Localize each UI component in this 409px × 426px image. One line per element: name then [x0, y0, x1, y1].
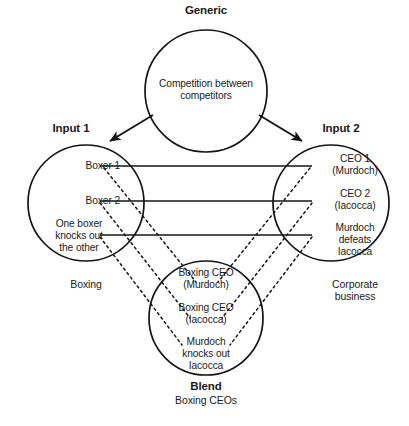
input1-element-boxer2: Boxer 2 — [46, 195, 120, 207]
input1-element-knockout: One boxer knocks out the other — [38, 218, 120, 254]
generic-space-title: Generic — [156, 4, 256, 18]
input2-element-ceo1: CEO 1 (Murdoch) — [316, 153, 394, 177]
input2-element-defeat: Murdoch defeats Iacocca — [316, 222, 394, 258]
generic-to-input1-arrow — [110, 115, 153, 141]
input1-domain-label: Boxing — [41, 278, 131, 290]
generic-space-content: Competition between competitors — [141, 78, 271, 102]
conceptual-blending-diagram: Generic Competition between competitors … — [0, 0, 409, 426]
input1-space-title: Input 1 — [26, 122, 116, 136]
blend-space-title: Blend — [161, 380, 251, 394]
input1-element-boxer1: Boxer 1 — [46, 160, 120, 172]
blend-space-subtitle: Boxing CEOs — [146, 394, 266, 406]
input2-domain-label: Corporate business — [306, 278, 404, 303]
input2-element-ceo2: CEO 2 (Iacocca) — [316, 188, 394, 212]
blend-element-boxing-ceo-iacocca: Boxing CEO (Iacocca) — [153, 302, 259, 326]
blend-element-boxing-ceo-murdoch: Boxing CEO (Murdoch) — [153, 267, 259, 291]
input2-space-title: Input 2 — [296, 122, 386, 136]
blend-element-knocks-out: Murdoch knocks out Iacocca — [161, 336, 251, 372]
